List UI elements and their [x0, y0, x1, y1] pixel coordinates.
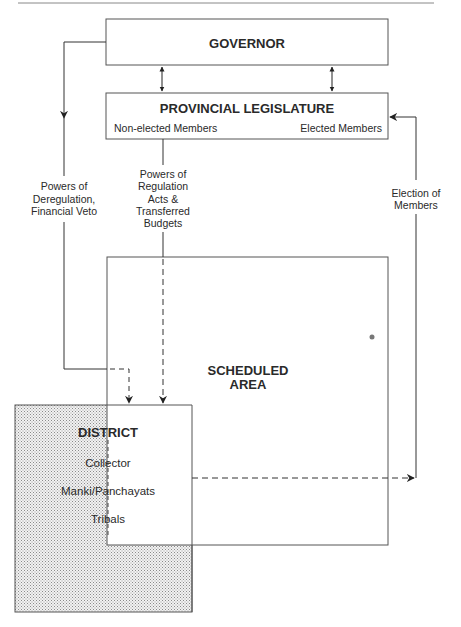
scheduled-area-label-1: SCHEDULED	[208, 363, 289, 378]
regulation-label-5: Budgets	[144, 217, 183, 229]
deregulation-label-1: Powers of	[41, 180, 88, 192]
deregulation-label-2: Deregulation,	[33, 193, 95, 205]
stray-mark	[370, 335, 375, 340]
district-tribals: Tribals	[91, 513, 125, 525]
deregulation-label-3: Financial Veto	[31, 205, 97, 217]
legislature-elected-label: Elected Members	[300, 122, 382, 134]
deregulation-arrow-path	[64, 42, 106, 118]
regulation-label-1: Powers of	[140, 168, 187, 180]
district-manki-panchayats: Manki/Panchayats	[61, 485, 155, 497]
legislature-nonelected-label: Non-elected Members	[114, 122, 217, 134]
regulation-label-3: Acts &	[148, 193, 178, 205]
district-label: DISTRICT	[78, 425, 138, 440]
scheduled-area-label-2: AREA	[230, 377, 267, 392]
regulation-label-4: Transferred	[136, 205, 190, 217]
district-collector: Collector	[85, 457, 131, 469]
election-label-1: Election of	[391, 187, 440, 199]
deregulation-line	[64, 118, 107, 369]
governance-diagram: GOVERNOR PROVINCIAL LEGISLATURE Non-elec…	[0, 0, 461, 627]
governor-label: GOVERNOR	[209, 36, 285, 51]
scheduled-area-box	[107, 257, 388, 545]
legislature-label: PROVINCIAL LEGISLATURE	[160, 101, 335, 116]
election-line	[390, 117, 416, 478]
regulation-label-2: Regulation	[138, 180, 188, 192]
election-label-2: Members	[394, 199, 438, 211]
